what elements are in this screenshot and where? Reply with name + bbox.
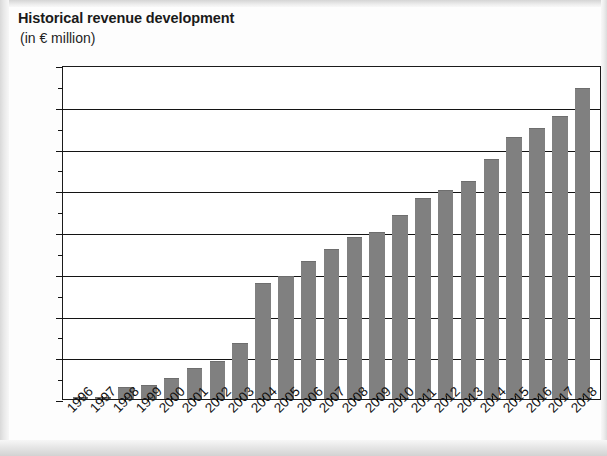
x-axis-label-slot: 1997 bbox=[91, 402, 114, 456]
bar-slot bbox=[206, 67, 229, 399]
x-axis-label-slot: 2007 bbox=[320, 402, 343, 456]
bar-2007 bbox=[324, 249, 340, 399]
bar-slot bbox=[252, 67, 275, 399]
x-axis-labels: 1996199719981999200020012002200320042005… bbox=[62, 402, 601, 456]
x-axis-label-slot: 2011 bbox=[412, 402, 435, 456]
bar-slot bbox=[92, 67, 115, 399]
bar-2008 bbox=[347, 237, 363, 399]
x-axis-label-slot: 2018 bbox=[572, 402, 595, 456]
bar-slot bbox=[274, 67, 297, 399]
bar-2016 bbox=[529, 128, 545, 399]
bars-group bbox=[63, 67, 600, 399]
x-axis-label-slot: 2001 bbox=[183, 402, 206, 456]
y-axis-tick bbox=[56, 234, 63, 235]
chart-title: Historical revenue development bbox=[18, 10, 234, 26]
x-axis-label-slot: 2017 bbox=[549, 402, 572, 456]
y-axis-tick bbox=[56, 359, 63, 360]
scanned-page: Historical revenue development (in € mil… bbox=[0, 0, 607, 456]
y-axis-tick bbox=[56, 276, 63, 277]
bar-2014 bbox=[484, 159, 500, 399]
bar-slot bbox=[503, 67, 526, 399]
chart-subtitle: (in € million) bbox=[20, 30, 95, 46]
bar-2009 bbox=[369, 232, 385, 399]
bar-2006 bbox=[301, 261, 317, 399]
bar-slot bbox=[457, 67, 480, 399]
y-axis-tick bbox=[56, 67, 63, 68]
bar-slot bbox=[183, 67, 206, 399]
page-edge-left bbox=[0, 0, 9, 456]
bar-slot bbox=[434, 67, 457, 399]
x-axis-label-slot: 2013 bbox=[457, 402, 480, 456]
bar-2012 bbox=[438, 190, 454, 399]
bar-2011 bbox=[415, 198, 431, 399]
x-axis-label-slot: 2008 bbox=[343, 402, 366, 456]
bar-2017 bbox=[552, 116, 568, 399]
chart-plot-area: 4,0003,5003,0002,5002,0001,5001,0005000 bbox=[62, 66, 601, 400]
x-axis-label-slot: 2016 bbox=[526, 402, 549, 456]
bar-slot bbox=[548, 67, 571, 399]
y-axis-tick bbox=[56, 192, 63, 193]
x-axis-label-slot: 1999 bbox=[137, 402, 160, 456]
bar-slot bbox=[69, 67, 92, 399]
x-axis-label-slot: 1996 bbox=[68, 402, 91, 456]
y-axis-tick bbox=[56, 109, 63, 110]
x-axis-label-slot: 2012 bbox=[435, 402, 458, 456]
page-edge-top bbox=[0, 0, 607, 7]
bar-slot bbox=[480, 67, 503, 399]
bar-2018 bbox=[575, 88, 591, 399]
bar-2015 bbox=[506, 137, 522, 399]
x-axis-label-slot: 2014 bbox=[480, 402, 503, 456]
x-axis-label-slot: 2000 bbox=[160, 402, 183, 456]
x-axis-label-slot: 2003 bbox=[228, 402, 251, 456]
bar-slot bbox=[115, 67, 138, 399]
bar-slot bbox=[343, 67, 366, 399]
x-axis-label-slot: 2009 bbox=[366, 402, 389, 456]
bar-slot bbox=[411, 67, 434, 399]
bar-slot bbox=[320, 67, 343, 399]
bar-2005 bbox=[278, 276, 294, 399]
bar-slot bbox=[389, 67, 412, 399]
x-axis-label-slot: 2004 bbox=[251, 402, 274, 456]
x-axis-label-slot: 2015 bbox=[503, 402, 526, 456]
x-axis-label-slot: 2005 bbox=[274, 402, 297, 456]
bar-2010 bbox=[392, 215, 408, 399]
y-axis-tick bbox=[56, 151, 63, 152]
bar-slot bbox=[571, 67, 594, 399]
x-axis-label-slot: 1998 bbox=[114, 402, 137, 456]
y-axis-tick bbox=[56, 318, 63, 319]
bar-slot bbox=[297, 67, 320, 399]
bar-slot bbox=[137, 67, 160, 399]
bar-slot bbox=[160, 67, 183, 399]
bar-slot bbox=[229, 67, 252, 399]
bar-2013 bbox=[461, 181, 477, 399]
x-axis-label-slot: 2002 bbox=[205, 402, 228, 456]
bar-2004 bbox=[255, 283, 271, 399]
page-edge-right bbox=[601, 0, 607, 456]
bar-slot bbox=[526, 67, 549, 399]
bar-slot bbox=[366, 67, 389, 399]
x-axis-label-slot: 2010 bbox=[389, 402, 412, 456]
x-axis-label-slot: 2006 bbox=[297, 402, 320, 456]
